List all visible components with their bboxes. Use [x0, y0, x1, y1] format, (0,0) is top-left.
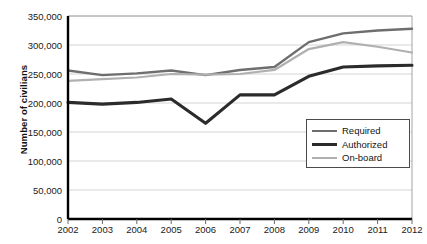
line-chart: Number of civilians 050,000100,000150,00…: [0, 0, 427, 244]
x-tick-label: 2012: [389, 224, 427, 235]
chart-legend: RequiredAuthorizedOn-board: [306, 119, 410, 168]
legend-swatch-icon: [312, 143, 337, 146]
legend-swatch-icon: [312, 157, 337, 159]
legend-item-onboard: On-board: [307, 151, 409, 165]
legend-label: On-board: [342, 152, 382, 163]
legend-label: Authorized: [342, 139, 387, 150]
legend-item-required: Required: [307, 124, 409, 138]
legend-swatch-icon: [312, 130, 337, 132]
legend-label: Required: [342, 125, 381, 136]
legend-item-authorized: Authorized: [307, 138, 409, 152]
